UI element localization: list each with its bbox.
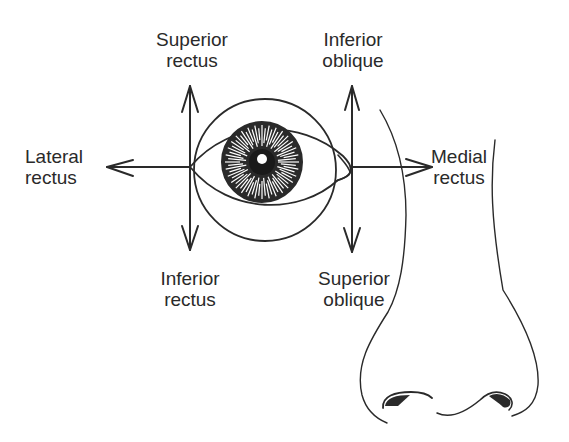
label-superior-rectus: Superior rectus: [140, 29, 244, 71]
pupil-highlight: [257, 154, 267, 164]
caruncle: [336, 155, 350, 181]
nose-left-contour: [360, 110, 406, 423]
inferior-superior-oblique-arrow: [344, 86, 360, 252]
eye-muscle-diagram: Superior rectus Inferior oblique Lateral…: [0, 0, 569, 442]
label-superior-oblique: Superior oblique: [308, 268, 400, 310]
lateral-rectus-arrow: [107, 160, 190, 176]
label-inferior-rectus: Inferior rectus: [148, 268, 232, 310]
medial-rectus-arrow: [352, 159, 432, 176]
diagram-drawing: [0, 0, 569, 442]
label-lateral-rectus: Lateral rectus: [25, 146, 95, 188]
label-medial-rectus: Medial rectus: [428, 146, 490, 188]
label-inferior-oblique: Inferior oblique: [308, 29, 398, 71]
iris: [222, 122, 302, 202]
nose-right-contour: [492, 140, 538, 416]
